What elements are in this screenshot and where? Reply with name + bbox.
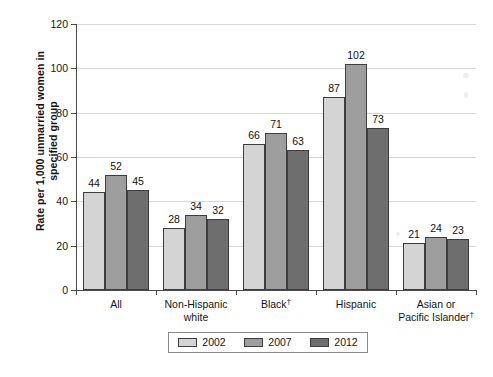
bar-hispanic-2007: [345, 64, 367, 290]
bar-hispanic-2012: [367, 128, 389, 290]
footnote-dagger-icon: †: [287, 297, 291, 306]
bar-value-all-2007: 52: [99, 161, 133, 172]
x-axis-line: [76, 290, 476, 291]
bar-all-2007: [105, 175, 127, 290]
bars-layer: 4452452834326671638710273212423: [76, 24, 476, 290]
y-tick-label-60: 60: [28, 152, 68, 162]
legend: 200220072012: [168, 332, 368, 353]
y-tick-label-40: 40: [28, 196, 68, 206]
category-tick: [236, 290, 237, 295]
bar-chart-figure: Rate per 1,000 unmarried women in specif…: [0, 0, 493, 377]
category-label-asian_pacific_islander: Asian orPacific Islander†: [376, 298, 493, 324]
y-tick-label-0: 0: [28, 285, 68, 295]
legend-label-2002: 2002: [202, 337, 225, 348]
bar-asian_pacific_islander-2002: [403, 243, 425, 290]
legend-entry-2002: 2002: [178, 337, 225, 348]
bar-black-2012: [287, 150, 309, 290]
category-tick: [316, 290, 317, 295]
category-label-line2: Pacific Islander†: [376, 311, 493, 324]
legend-entry-2012: 2012: [310, 337, 357, 348]
bar-all-2012: [127, 190, 149, 290]
bar-value-black-2007: 71: [259, 119, 293, 130]
y-tick-label-20: 20: [28, 241, 68, 251]
category-label-line2: white: [136, 311, 256, 324]
bar-value-black-2012: 63: [281, 136, 315, 147]
bar-value-asian_pacific_islander-2012: 23: [441, 225, 475, 236]
legend-label-2012: 2012: [334, 337, 357, 348]
category-tick: [476, 290, 477, 295]
legend-label-2007: 2007: [268, 337, 291, 348]
y-axis-title: Rate per 1,000 unmarried women in specif…: [34, 6, 60, 276]
y-tick-label-80: 80: [28, 108, 68, 118]
legend-entry-2007: 2007: [244, 337, 291, 348]
bar-asian_pacific_islander-2007: [425, 237, 447, 290]
category-label-line1: Asian or: [376, 298, 493, 311]
bar-black-2002: [243, 144, 265, 290]
plot-area: 4452452834326671638710273212423: [76, 24, 476, 290]
bar-hispanic-2002: [323, 97, 345, 290]
bar-non_hispanic_white-2012: [207, 219, 229, 290]
figure-caption: [0, 369, 493, 377]
y-tick-label-120: 120: [28, 19, 68, 29]
bar-value-all-2012: 45: [121, 176, 155, 187]
category-tick: [156, 290, 157, 295]
y-tick-label-100: 100: [28, 63, 68, 73]
bar-value-non_hispanic_white-2012: 32: [201, 205, 235, 216]
bar-value-hispanic-2007: 102: [339, 50, 373, 61]
category-tick: [76, 290, 77, 295]
bar-all-2002: [83, 192, 105, 290]
legend-swatch-2002: [178, 338, 197, 347]
bar-asian_pacific_islander-2012: [447, 239, 469, 290]
bar-value-hispanic-2012: 73: [361, 114, 395, 125]
category-tick: [396, 290, 397, 295]
bar-non_hispanic_white-2002: [163, 228, 185, 290]
legend-swatch-2007: [244, 338, 263, 347]
bar-non_hispanic_white-2007: [185, 215, 207, 290]
bar-black-2007: [265, 133, 287, 290]
footnote-dagger-icon: †: [469, 310, 473, 319]
legend-swatch-2012: [310, 338, 329, 347]
